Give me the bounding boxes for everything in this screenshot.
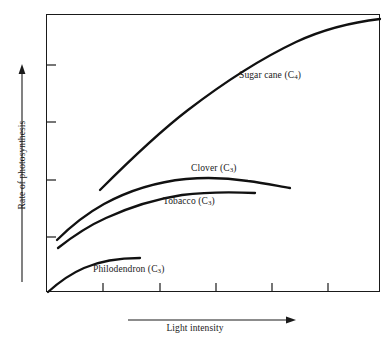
y-axis-label-group: Rate of photosynthesis <box>0 60 44 290</box>
curve-label-clover-text: Clover (C <box>191 163 230 173</box>
y-axis-title: Rate of photosynthesis <box>17 65 27 265</box>
curve-label-philodendron-text: Philodendron (C <box>93 264 158 274</box>
curve-label-tobacco-text: Tobacco (C <box>163 196 208 206</box>
curve-label-clover-paren: ) <box>233 163 236 173</box>
curve-label-philodendron-paren: ) <box>161 264 164 274</box>
curve-label-sugar-cane: Sugar cane (C4) <box>239 70 301 81</box>
curve-label-philodendron: Philodendron (C3) <box>93 264 164 275</box>
curve-label-tobacco: Tobacco (C3) <box>163 196 215 207</box>
figure-container: Rate of photosynthesis Light intensity S… <box>0 0 387 339</box>
plot-frame <box>46 14 380 292</box>
curve-label-clover: Clover (C3) <box>191 163 237 174</box>
x-axis-arrow-head <box>286 317 296 324</box>
x-axis-title: Light intensity <box>125 323 265 333</box>
curve-label-sugar-cane-text: Sugar cane (C <box>239 70 294 80</box>
curve-label-tobacco-paren: ) <box>212 196 215 206</box>
curve-label-sugar-cane-paren: ) <box>298 70 301 80</box>
